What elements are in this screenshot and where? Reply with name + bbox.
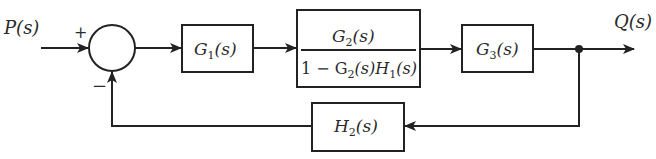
plus-sign: +: [74, 23, 87, 42]
minus-sign: −: [92, 75, 107, 96]
summing-junction: [89, 25, 135, 71]
feedback-line-left: [112, 72, 312, 126]
input-label: P(s): [3, 17, 39, 38]
inner-numerator: G2(s): [332, 26, 375, 49]
inner-denominator: 1 − G2(s)H1(s): [301, 59, 417, 81]
g1-label: G1(s): [194, 39, 237, 62]
block-diagram: P(s) + − Q(s) G1(s) G2(s) 1 − G2(s)H1(s)…: [0, 0, 656, 159]
g3-label: G3(s): [476, 39, 519, 62]
output-label: Q(s): [614, 11, 652, 32]
takeoff-point: [575, 45, 583, 53]
h2-label: H2(s): [333, 116, 378, 139]
